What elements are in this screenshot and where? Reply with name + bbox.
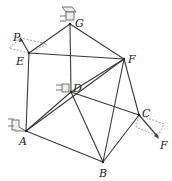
member-BC — [103, 115, 139, 162]
member-DC — [71, 92, 139, 115]
joint-B — [102, 161, 104, 163]
label-C: C — [142, 107, 151, 120]
label-B: B — [98, 167, 107, 180]
joint-G — [69, 23, 71, 25]
member-DA — [26, 92, 71, 131]
member-FA — [26, 59, 124, 131]
load-label-F: F — [159, 139, 168, 152]
support-a-icon — [8, 119, 26, 131]
member-FC — [124, 59, 139, 115]
support-g-icon — [60, 7, 76, 21]
member-GE — [29, 24, 70, 53]
truss-members — [26, 24, 139, 162]
joint-F — [123, 58, 125, 60]
support-d-icon — [56, 84, 69, 92]
label-A: A — [18, 135, 27, 148]
joint-D — [70, 91, 72, 93]
load-label-P: P — [12, 31, 21, 44]
joint-E — [28, 52, 30, 54]
label-G: G — [75, 17, 84, 30]
joint-A — [25, 130, 27, 132]
truss-diagram: GEFDACBPF — [0, 0, 172, 181]
member-EF — [29, 53, 124, 59]
label-D: D — [72, 82, 82, 95]
label-F: F — [127, 53, 136, 66]
label-E: E — [15, 55, 24, 68]
member-GD — [70, 24, 71, 92]
joint-C — [138, 114, 140, 116]
member-FB — [103, 59, 124, 162]
member-EA — [26, 53, 29, 131]
